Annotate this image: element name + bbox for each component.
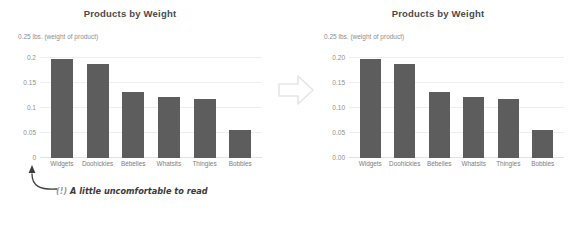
- y-axis-caption-right: 0.25 lbs. (weight of product): [324, 33, 404, 40]
- annotation-left-text: A little uncomfortable to read: [70, 186, 208, 196]
- bar-slot: [353, 40, 388, 158]
- bar-slot: [526, 40, 561, 158]
- bar-group-left: [40, 40, 262, 158]
- bar-slot: [115, 40, 151, 158]
- x-tick-label: Widgets: [353, 160, 388, 167]
- y-axis-caption-left: 0.25 lbs. (weight of product): [18, 33, 98, 40]
- x-axis-labels-left: Widgets Doohickies Bébelles Whatsits Thi…: [40, 160, 262, 167]
- bar-slot: [44, 40, 80, 158]
- bar-right-3: [463, 97, 484, 158]
- y-tick-label-right-1: 0.15: [332, 78, 345, 85]
- y-tick-label-right-2: 0.10: [332, 103, 345, 110]
- y-tick-label-left-2: 0.1: [27, 103, 36, 110]
- y-tick-label-left-1: 0.15: [23, 78, 36, 85]
- x-tick-label: Whatsits: [151, 160, 187, 167]
- y-tick-label-left-0: 0.2: [27, 53, 36, 60]
- bar-left-5: [229, 130, 251, 158]
- bar-right-5: [532, 130, 553, 158]
- bar-right-0: [360, 59, 381, 158]
- page-title-right: Products by Weight: [320, 8, 556, 19]
- x-tick-label: Doohickies: [80, 160, 116, 167]
- bar-group-right: [349, 40, 564, 158]
- bar-left-3: [158, 97, 180, 158]
- bar-slot: [491, 40, 526, 158]
- bar-slot: [151, 40, 187, 158]
- x-tick-label: Thingies: [491, 160, 526, 167]
- slide-canvas: Products by Weight 0.25 lbs. (weight of …: [0, 0, 576, 227]
- y-tick-label-right-3: 0.05: [332, 128, 345, 135]
- y-tick-label-left-3: 0.05: [23, 128, 36, 135]
- plot-area-left: 0.2 0.15 0.1 0.05 0: [40, 40, 262, 158]
- bar-slot: [457, 40, 492, 158]
- bar-slot: [222, 40, 258, 158]
- page-title-left: Products by Weight: [10, 8, 250, 19]
- x-tick-label: Whatsits: [457, 160, 492, 167]
- bar-right-1: [394, 64, 415, 158]
- bar-left-2: [122, 92, 144, 158]
- x-tick-label: Thingies: [187, 160, 223, 167]
- bar-right-4: [498, 99, 519, 158]
- chart-panel-after: Products by Weight 0.25 lbs. (weight of …: [306, 0, 576, 227]
- bar-left-4: [194, 99, 216, 158]
- chart-panel-before: Products by Weight 0.25 lbs. (weight of …: [0, 0, 280, 227]
- y-tick-label-right-0: 0.20: [332, 53, 345, 60]
- bar-slot: [388, 40, 423, 158]
- x-tick-label: Bébelles: [115, 160, 151, 167]
- bar-left-1: [87, 64, 109, 158]
- annotation-left: (!) A little uncomfortable to read: [56, 186, 208, 197]
- warning-mark-icon: (!): [56, 186, 67, 196]
- bar-slot: [422, 40, 457, 158]
- bar-slot: [80, 40, 116, 158]
- x-tick-label: Doohickies: [388, 160, 423, 167]
- x-tick-label: Bébelles: [422, 160, 457, 167]
- bar-slot: [187, 40, 223, 158]
- y-tick-label-right-4: 0.00: [332, 153, 345, 160]
- x-tick-label: Bobbles: [222, 160, 258, 167]
- x-tick-label: Bobbles: [526, 160, 561, 167]
- bar-left-0: [51, 59, 73, 158]
- bar-right-2: [429, 92, 450, 158]
- plot-area-right: 0.20 0.15 0.10 0.05 0.00: [349, 40, 564, 158]
- x-axis-labels-right: Widgets Doohickies Bébelles Whatsits Thi…: [349, 160, 564, 167]
